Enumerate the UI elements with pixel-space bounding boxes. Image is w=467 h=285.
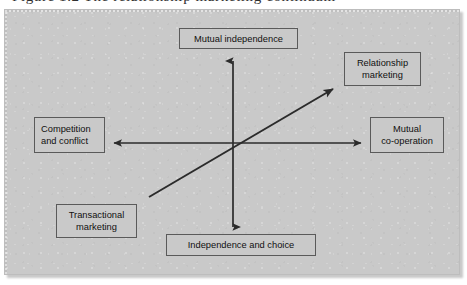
figure-caption-text: Figure 1.2 The relationship marketing co… <box>12 0 336 5</box>
node-independence-choice: Independence and choice <box>166 234 316 256</box>
node-mutual-cooperation: Mutual co-operation <box>370 117 444 153</box>
node-transactional-marketing-label: Transactional marketing <box>69 209 124 233</box>
node-independence-choice-label: Independence and choice <box>188 239 295 251</box>
node-competition-conflict: Competition and conflict <box>34 117 105 153</box>
node-mutual-independence-label: Mutual independence <box>194 33 283 45</box>
figure-caption-sliver: Figure 1.2 The relationship marketing co… <box>0 0 467 9</box>
node-mutual-cooperation-label: Mutual co-operation <box>381 123 433 147</box>
node-transactional-marketing: Transactional marketing <box>56 204 137 238</box>
node-relationship-marketing-label: Relationship marketing <box>357 57 408 81</box>
node-competition-conflict-label: Competition and conflict <box>41 123 91 147</box>
figure-panel: Mutual independence Relationship marketi… <box>4 9 460 275</box>
node-mutual-independence: Mutual independence <box>179 28 298 49</box>
node-relationship-marketing: Relationship marketing <box>344 52 421 86</box>
